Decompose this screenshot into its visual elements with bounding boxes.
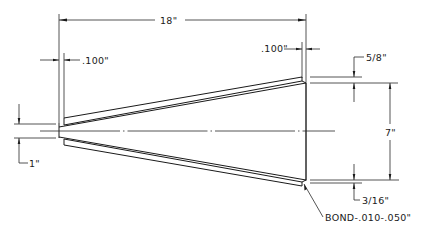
arrowhead	[53, 59, 59, 62]
large-end-diameter-dimension: 7"	[385, 83, 396, 180]
arrowhead	[18, 118, 21, 124]
small-end-leader	[19, 138, 28, 163]
arrowhead-left	[59, 19, 67, 22]
bond-note-label: BOND-.010-.050"	[325, 212, 411, 223]
arrowhead	[296, 48, 302, 51]
upper-liner-outer	[64, 81, 302, 125]
arrowhead	[64, 59, 70, 62]
cone-body	[59, 77, 306, 186]
bottom-flange-label: 3/16"	[362, 195, 389, 206]
length-label: 18"	[160, 15, 177, 26]
top-flange-dimension: 5/8"	[310, 52, 398, 103]
arrowhead	[304, 184, 307, 191]
arrowhead	[306, 48, 312, 51]
small-end-diameter-dimension: 1"	[14, 104, 56, 169]
lower-liner-outer	[64, 139, 302, 182]
right-thickness-dimension: .100"	[261, 42, 320, 78]
arrowhead	[353, 83, 356, 89]
lower-outer-wall	[64, 145, 302, 186]
upper-outer-wall	[64, 77, 302, 118]
cone-drawing: 18" .100" .100"	[0, 0, 425, 239]
arrowhead	[353, 174, 356, 180]
arrowhead	[389, 83, 392, 89]
upper-right-lip	[302, 81, 306, 83]
arrowhead	[389, 174, 392, 180]
left-thickness-label: .100"	[82, 55, 109, 66]
large-end-diameter-label: 7"	[385, 127, 396, 138]
bottom-flange-leader	[354, 183, 360, 200]
arrowhead-right	[298, 19, 306, 22]
lower-right-lip	[302, 180, 306, 182]
arrowhead	[353, 183, 356, 189]
right-thickness-label: .100"	[261, 43, 288, 54]
top-flange-leader	[354, 57, 364, 77]
lower-liner-inner	[59, 137, 306, 180]
bottom-flange-dimension: 3/16"	[310, 164, 399, 206]
top-flange-label: 5/8"	[366, 52, 387, 63]
arrowhead	[353, 71, 356, 77]
small-end-diameter-label: 1"	[29, 158, 40, 169]
bond-note: BOND-.010-.050"	[304, 184, 411, 223]
upper-liner-inner	[59, 83, 306, 127]
left-thickness-dimension: .100"	[40, 53, 109, 118]
